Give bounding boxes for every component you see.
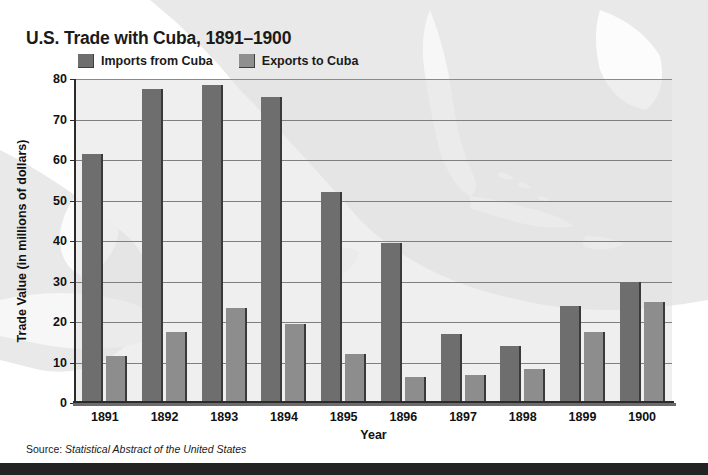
legend-item-imports: Imports from Cuba bbox=[78, 54, 213, 68]
bar-exports-1896[interactable] bbox=[405, 377, 426, 403]
bar-imports-1891[interactable] bbox=[82, 154, 103, 403]
bar-group-1900 bbox=[612, 79, 672, 403]
bar-exports-1897[interactable] bbox=[465, 375, 486, 403]
x-tick-label-1891: 1891 bbox=[75, 410, 135, 424]
legend-label-exports: Exports to Cuba bbox=[262, 54, 359, 68]
source-note: Source: Statistical Abstract of the Unit… bbox=[26, 443, 246, 455]
bar-imports-1899[interactable] bbox=[560, 306, 581, 403]
x-tick-label-1892: 1892 bbox=[135, 410, 195, 424]
bar-exports-1895[interactable] bbox=[345, 354, 366, 403]
y-tick-label-60: 60 bbox=[29, 153, 67, 167]
chart-figure: U.S. Trade with Cuba, 1891–1900 Imports … bbox=[0, 0, 708, 475]
legend-label-imports: Imports from Cuba bbox=[101, 54, 213, 68]
bar-group-1899 bbox=[553, 79, 613, 403]
legend-swatch-imports-icon bbox=[78, 54, 94, 68]
bar-imports-1897[interactable] bbox=[441, 334, 462, 403]
y-tick-label-70: 70 bbox=[29, 113, 67, 127]
bar-exports-1898[interactable] bbox=[524, 369, 545, 403]
x-axis-line bbox=[73, 401, 674, 403]
x-tick-label-1894: 1894 bbox=[254, 410, 314, 424]
x-tick-label-1896: 1896 bbox=[374, 410, 434, 424]
y-tick-label-10: 10 bbox=[29, 356, 67, 370]
bar-group-1898 bbox=[493, 79, 553, 403]
x-tick-label-1899: 1899 bbox=[553, 410, 613, 424]
bar-group-1892 bbox=[135, 79, 195, 403]
x-tick-label-1895: 1895 bbox=[314, 410, 374, 424]
bar-group-1891 bbox=[75, 79, 135, 403]
legend-item-exports: Exports to Cuba bbox=[239, 54, 359, 68]
bottom-rule bbox=[0, 463, 708, 475]
bar-imports-1892[interactable] bbox=[142, 89, 163, 403]
x-tick-label-1900: 1900 bbox=[612, 410, 672, 424]
bar-exports-1893[interactable] bbox=[226, 308, 247, 403]
x-axis-title: Year bbox=[75, 428, 672, 442]
x-tick-label-1897: 1897 bbox=[433, 410, 493, 424]
bar-group-1894 bbox=[254, 79, 314, 403]
chart-legend: Imports from Cuba Exports to Cuba bbox=[78, 54, 358, 68]
bar-imports-1895[interactable] bbox=[321, 192, 342, 403]
y-tick-label-50: 50 bbox=[29, 194, 67, 208]
bar-imports-1894[interactable] bbox=[261, 97, 282, 403]
x-tick-label-1898: 1898 bbox=[493, 410, 553, 424]
y-tick-label-30: 30 bbox=[29, 275, 67, 289]
bar-imports-1896[interactable] bbox=[381, 243, 402, 403]
y-tick-label-40: 40 bbox=[29, 234, 67, 248]
source-title: Statistical Abstract of the United State… bbox=[65, 443, 246, 455]
y-tick-label-20: 20 bbox=[29, 315, 67, 329]
x-axis-shadow bbox=[73, 403, 676, 406]
bar-group-1893 bbox=[194, 79, 254, 403]
bar-exports-1894[interactable] bbox=[285, 324, 306, 403]
y-tick-label-80: 80 bbox=[29, 72, 67, 86]
x-tick-label-1893: 1893 bbox=[194, 410, 254, 424]
bars-layer bbox=[75, 79, 672, 403]
y-tick-label-0: 0 bbox=[29, 396, 67, 410]
source-label: Source: bbox=[26, 443, 62, 455]
bar-imports-1898[interactable] bbox=[500, 346, 521, 403]
bar-imports-1900[interactable] bbox=[620, 282, 641, 404]
bar-exports-1900[interactable] bbox=[644, 302, 665, 403]
y-axis-title: Trade Value (in millions of dollars) bbox=[15, 140, 29, 343]
bar-exports-1899[interactable] bbox=[584, 332, 605, 403]
legend-swatch-exports-icon bbox=[239, 54, 255, 68]
bar-group-1895 bbox=[314, 79, 374, 403]
plot-frame: 01020304050607080 Trade Value (in millio… bbox=[75, 79, 672, 403]
bar-group-1897 bbox=[433, 79, 493, 403]
bar-exports-1892[interactable] bbox=[166, 332, 187, 403]
bar-imports-1893[interactable] bbox=[202, 85, 223, 403]
x-axis-tick-labels: 1891189218931894189518961897189818991900 bbox=[75, 410, 672, 424]
bar-group-1896 bbox=[374, 79, 434, 403]
chart-title: U.S. Trade with Cuba, 1891–1900 bbox=[26, 28, 291, 49]
bar-exports-1891[interactable] bbox=[106, 356, 127, 403]
